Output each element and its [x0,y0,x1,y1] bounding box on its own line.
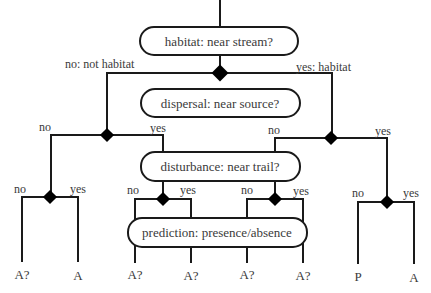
edge-label-yes-habitat: yes: habitat [296,60,352,74]
disturbance-node: disturbance: near trail? [141,152,300,181]
edge-label-rl-yes: yes [293,184,309,198]
edge-label-no-not-habitat: no: not habitat [65,57,135,71]
far-right-decision-diamond-icon [380,195,394,209]
center-right-decision-diamond-icon [268,192,282,206]
prediction-node-label: prediction: presence/absence [142,225,292,240]
habitat-node-label: habitat: near stream? [165,34,274,49]
leaf-label: A [73,268,83,283]
prediction-node: prediction: presence/absence [128,218,307,247]
leaf-label: A? [127,267,142,282]
decision-tree: habitat: near stream? no: not habitat ye… [0,0,431,293]
edge-label-ll-yes: yes [70,182,86,196]
edge-label-ll-no: no [14,182,26,196]
edge-label-lr-no: no [127,183,139,197]
far-right-split-lines [358,202,414,264]
leaf-label: A? [295,268,310,283]
leaf-label: P [354,269,361,284]
left-decision-diamond-icon [100,128,114,142]
habitat-node: habitat: near stream? [140,27,298,55]
dispersal-node-label: dispersal: near source? [161,96,280,111]
right-decision-diamond-icon [324,131,338,145]
edge-label-rr-no: no [352,186,364,200]
dispersal-node: dispersal: near source? [141,89,300,117]
edge-label-left-no: no [39,120,51,134]
leaf-label: A? [183,268,198,283]
habitat-decision-diamond-icon [212,65,229,82]
edge-label-right-no: no [268,123,280,137]
leaf-label: A [409,270,419,285]
edge-label-left-yes: yes [150,121,166,135]
edge-label-rl-no: no [241,183,253,197]
far-left-decision-diamond-icon [43,190,57,204]
leaf-label: A? [239,267,254,282]
edge-label-lr-yes: yes [180,183,196,197]
leaf-label: A? [14,267,29,282]
far-left-split-lines [22,197,78,262]
disturbance-node-label: disturbance: near trail? [160,159,279,174]
edge-label-right-yes: yes [375,124,391,138]
edge-label-rr-yes: yes [403,186,419,200]
center-left-decision-diamond-icon [156,192,170,206]
